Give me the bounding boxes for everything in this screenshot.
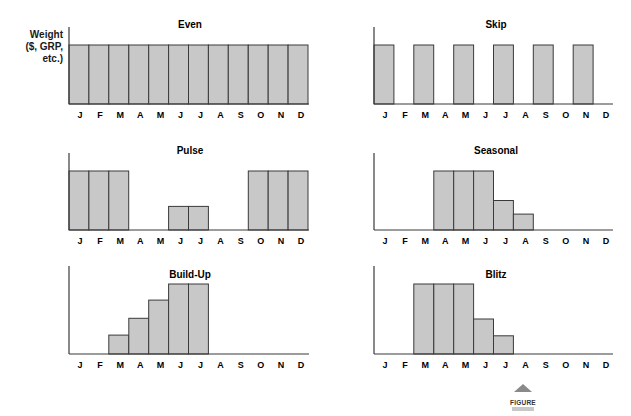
x-tick-label: D <box>298 360 305 370</box>
bar-m <box>454 171 474 230</box>
bar-a <box>129 318 149 354</box>
x-tick-label: S <box>543 110 549 120</box>
bar-j <box>189 45 209 104</box>
bar-a <box>208 45 228 104</box>
x-tick-label: A <box>442 360 449 370</box>
x-tick-label: F <box>97 360 103 370</box>
x-tick-label: J <box>198 110 203 120</box>
triangle-up-icon <box>514 384 532 392</box>
x-tick-label: J <box>382 236 387 246</box>
x-tick-label: D <box>298 110 305 120</box>
figure-marker: FIGURE <box>508 384 538 411</box>
chart-panel-blitz: BlitzJFMAMJJASOND <box>374 266 613 370</box>
x-tick-label: A <box>522 360 529 370</box>
x-tick-label: D <box>603 236 610 246</box>
x-tick-label: M <box>462 236 470 246</box>
x-tick-label: J <box>77 360 82 370</box>
y-axis-label: Weight ($, GRP, etc.) <box>0 29 63 65</box>
x-tick-label: A <box>137 110 144 120</box>
x-tick-label: D <box>603 110 610 120</box>
y-axis-label-line-3: etc.) <box>0 53 63 65</box>
bar-j <box>189 206 209 230</box>
bar-j <box>494 201 514 231</box>
bar-m <box>414 45 434 104</box>
x-tick-label: J <box>382 110 387 120</box>
bar-a <box>513 214 533 230</box>
bar-j <box>374 45 394 104</box>
x-tick-label: A <box>522 236 529 246</box>
bar-m <box>454 45 474 104</box>
x-tick-label: M <box>462 110 470 120</box>
bar-m <box>414 284 434 354</box>
x-tick-label: A <box>217 236 224 246</box>
x-tick-label: N <box>583 236 590 246</box>
chart-title: Pulse <box>177 145 204 156</box>
bar-a <box>434 284 454 354</box>
x-tick-label: M <box>116 360 124 370</box>
x-tick-label: D <box>603 360 610 370</box>
bar-a <box>129 45 149 104</box>
x-tick-label: N <box>583 360 590 370</box>
bar-f <box>89 45 109 104</box>
bar-m <box>109 335 129 354</box>
chart-title: Skip <box>485 19 506 30</box>
x-tick-label: N <box>278 360 285 370</box>
x-tick-label: F <box>402 236 408 246</box>
chart-title: Blitz <box>485 269 506 280</box>
x-tick-label: M <box>421 236 429 246</box>
bar-a <box>434 171 454 230</box>
bar-j <box>189 284 209 354</box>
chart-panel-skip: SkipJFMAMJJASOND <box>374 19 613 120</box>
x-tick-label: N <box>278 236 285 246</box>
bar-j <box>169 284 189 354</box>
bar-j <box>494 336 514 354</box>
x-tick-label: M <box>421 360 429 370</box>
x-tick-label: M <box>157 360 165 370</box>
bar-j <box>494 45 514 104</box>
x-tick-label: D <box>298 236 305 246</box>
x-tick-label: N <box>583 110 590 120</box>
x-tick-label: J <box>483 110 488 120</box>
chart-panel-pulse: PulseJFMAMJJASOND <box>69 145 309 246</box>
bar-n <box>268 45 288 104</box>
bar-d <box>288 45 308 104</box>
x-tick-label: J <box>503 236 508 246</box>
y-axis-label-line-1: Weight <box>0 29 63 41</box>
bar-j <box>474 319 494 354</box>
chart-title: Even <box>178 19 202 30</box>
x-tick-label: F <box>97 110 103 120</box>
bar-m <box>109 45 129 104</box>
figure-number-block <box>512 407 534 411</box>
x-tick-label: A <box>137 236 144 246</box>
x-tick-label: S <box>238 236 244 246</box>
media-scheduling-patterns-figure: EvenJFMAMJJASONDSkipJFMAMJJASONDPulseJFM… <box>0 0 631 416</box>
x-tick-label: S <box>543 236 549 246</box>
x-tick-label: M <box>157 236 165 246</box>
bar-s <box>228 45 248 104</box>
x-tick-label: A <box>442 236 449 246</box>
x-tick-label: J <box>198 360 203 370</box>
x-tick-label: S <box>238 110 244 120</box>
x-tick-label: J <box>77 110 82 120</box>
x-tick-label: A <box>137 360 144 370</box>
x-tick-label: O <box>257 110 264 120</box>
y-axis-label-line-2: ($, GRP, <box>0 41 63 53</box>
bar-o <box>248 171 268 230</box>
x-tick-label: O <box>257 360 264 370</box>
x-tick-label: O <box>562 236 569 246</box>
x-tick-label: J <box>483 236 488 246</box>
x-tick-label: M <box>116 236 124 246</box>
bar-o <box>248 45 268 104</box>
x-tick-label: M <box>157 110 165 120</box>
bar-j <box>169 45 189 104</box>
x-tick-label: J <box>503 110 508 120</box>
chart-title: Seasonal <box>474 145 518 156</box>
x-tick-label: M <box>462 360 470 370</box>
x-tick-label: J <box>178 236 183 246</box>
bar-n <box>268 171 288 230</box>
x-tick-label: S <box>238 360 244 370</box>
x-tick-label: A <box>522 110 529 120</box>
bar-j <box>474 171 494 230</box>
chart-title: Build-Up <box>169 269 211 280</box>
x-tick-label: F <box>97 236 103 246</box>
